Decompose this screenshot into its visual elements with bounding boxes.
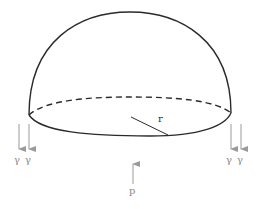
base-ellipse-back [29, 97, 231, 115]
left-tension-label-1: γ [14, 155, 20, 165]
left-tension-arrows [19, 124, 29, 149]
right-tension-label-2: γ [237, 155, 243, 165]
hemisphere-diagram [0, 0, 256, 209]
right-tension-label-1: γ [226, 155, 232, 165]
pressure-label: p [129, 186, 135, 196]
dome-outline [29, 12, 231, 115]
radius-label: r [158, 114, 163, 124]
left-tension-label-2: γ [25, 155, 31, 165]
base-ellipse-front [29, 113, 231, 136]
right-tension-arrows [231, 124, 241, 149]
